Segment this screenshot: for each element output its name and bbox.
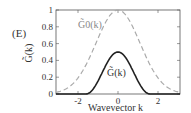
x-tick-label: -2 [74, 96, 82, 106]
y-tick-label: 0.6 [42, 39, 54, 49]
panel-label: (E) [12, 28, 26, 39]
y-tick-label: 0.8 [42, 22, 54, 32]
y-tick-label: 1 [49, 5, 54, 15]
legend-g-label: G̃(k) [107, 68, 126, 78]
y-tick-label: 0.4 [42, 55, 54, 65]
x-axis-label: Wavevector k [88, 103, 143, 113]
y-axis-label: G̃(k) [24, 44, 34, 63]
x-tick-label: 2 [156, 96, 161, 106]
chart-figure: 00.20.40.60.81-202 (E) G̃(k) Wavevector … [0, 0, 191, 113]
y-tick-label: 0 [49, 89, 54, 99]
legend-g0-label: G̃0(k) [78, 20, 102, 30]
y-tick-label: 0.2 [42, 72, 53, 82]
